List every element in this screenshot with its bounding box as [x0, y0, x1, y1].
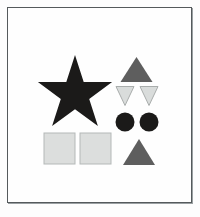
figure-root	[0, 0, 200, 217]
circle-shape	[140, 113, 159, 132]
shape-canvas	[0, 0, 200, 217]
star-shape	[38, 55, 112, 126]
triangle-up-icon	[121, 57, 153, 82]
square-shape	[80, 133, 111, 164]
circle-shape	[116, 113, 135, 132]
triangle-down-icon	[116, 87, 134, 106]
square-shape	[44, 133, 75, 164]
triangle-up-icon	[123, 139, 155, 165]
triangle-down-icon	[140, 87, 158, 106]
